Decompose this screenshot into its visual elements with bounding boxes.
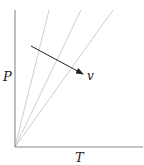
isochore-line-3 <box>15 10 113 147</box>
y-axis-label: P <box>2 69 12 84</box>
isochore-line-2 <box>15 10 81 147</box>
arrow-label: v <box>87 69 94 83</box>
isochore-line-1 <box>15 10 49 147</box>
x-axis-label: T <box>75 150 85 165</box>
p-t-diagram: v P T <box>0 0 144 165</box>
volume-arrow <box>31 46 83 74</box>
